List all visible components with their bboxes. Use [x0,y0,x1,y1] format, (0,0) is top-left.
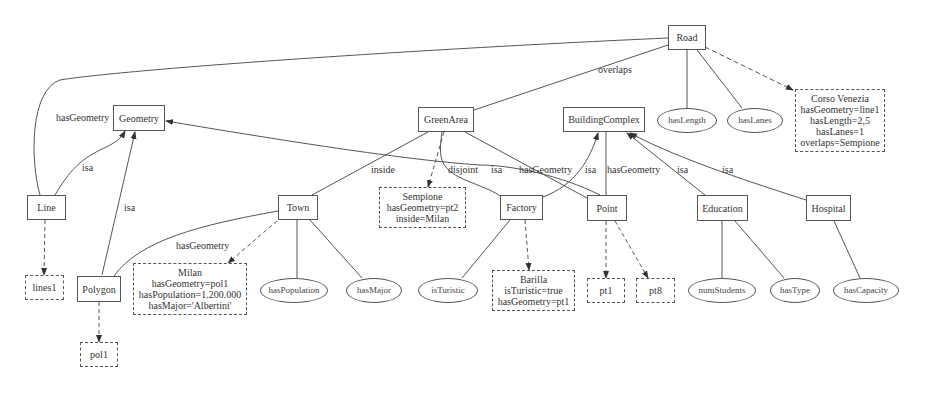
edge-label-isa-education: isa [677,164,688,175]
edge-label-disjoint: disjoint [448,164,478,175]
edge-label-hasgeometry-town: hasGeometry [176,240,229,251]
edge-point-geometry [166,121,600,195]
edge-town-milan [228,221,277,263]
edge-label-isa-polygon: isa [124,202,135,213]
instance-pt8[interactable]: pt8 [636,278,675,303]
class-road[interactable]: Road [668,25,706,50]
instance-milan-line: hasGeometry=pol1 [152,278,229,289]
edge-line-lines1 [44,220,45,275]
instance-sempione-line: inside=Milan [396,213,449,224]
instance-milan-line: hasMajor='Albertini' [148,300,231,311]
class-polygon[interactable]: Polygon [77,276,121,302]
instance-sempione-line: Sempione [403,191,443,202]
edge-road-greenarea [474,45,668,110]
class-line[interactable]: Line [27,195,66,220]
attr-has-lanes[interactable]: hasLanes [727,108,783,133]
edge-factory-barilla [525,220,529,270]
edge-label-isa-point: isa [491,164,502,175]
edge-greenarea-town [312,132,428,195]
instance-corso-venezia-line: hasGeometry=line1 [801,104,880,115]
attr-has-major[interactable]: hasMajor [346,278,402,303]
instance-pt1[interactable]: pt1 [587,278,625,303]
instance-barilla-line: isTuristic=true [504,285,563,296]
instance-milan-line: hasPopulation=1.200.000 [139,289,241,300]
instance-pol1[interactable]: pol1 [80,342,118,367]
attr-has-population[interactable]: hasPopulation [260,278,328,303]
instance-corso-venezia-line: hasLength=2,5 [810,115,870,126]
instance-barilla[interactable]: Barilla isTuristic=true hasGeometry=pt1 [492,270,575,311]
edge-point-pt8 [615,221,648,278]
attr-has-type[interactable]: hasType [770,278,820,303]
edge-label-isa-factory: isa [585,164,596,175]
attr-has-length[interactable]: hasLength [657,108,717,133]
class-green-area[interactable]: GreenArea [418,107,474,132]
edge-label-overlaps: overlaps [598,64,632,75]
edge-road-haslanes [697,50,742,108]
instance-sempione-line: hasGeometry=pt2 [387,202,459,213]
instance-corso-venezia-line: hasLanes=1 [816,126,864,137]
class-building-complex[interactable]: BuildingComplex [563,107,645,132]
edge-town-hasmajor [310,220,362,278]
instance-sempione[interactable]: Sempione hasGeometry=pt2 inside=Milan [379,187,466,228]
edge-label-inside: inside [371,164,395,175]
edge-education-hastype [735,221,784,278]
instance-lines1[interactable]: lines1 [25,275,64,300]
instance-barilla-line: hasGeometry=pt1 [498,296,570,307]
instance-milan[interactable]: Milan hasGeometry=pol1 hasPopulation=1.2… [133,263,247,315]
edge-label-isa-line: isa [82,162,93,173]
attr-has-capacity[interactable]: hasCapacity [833,278,899,303]
class-factory[interactable]: Factory [500,195,543,220]
instance-barilla-line: Barilla [520,274,547,285]
edge-road-corso [705,47,793,90]
class-geometry[interactable]: Geometry [113,105,165,131]
class-education[interactable]: Education [697,195,748,221]
edge-label-hasgeometry-point: hasGeometry [607,164,660,175]
edge-label-hasgeometry-line: hasGeometry [56,112,109,123]
instance-corso-venezia-line: Corso Venezia [811,93,869,104]
edge-label-hasgeometry-factory: hasGeometry [519,164,572,175]
edge-label-isa-hospital: isa [722,164,733,175]
attr-is-turistic[interactable]: isTuristic [418,278,478,303]
instance-corso-venezia-line: overlaps=Sempione [800,137,880,148]
attr-num-students[interactable]: numStudents [688,278,756,303]
instance-milan-line: Milan [178,267,202,278]
edge-hospital-hascapacity [834,221,860,278]
class-point[interactable]: Point [587,195,627,221]
instance-corso-venezia[interactable]: Corso Venezia hasGeometry=line1 hasLengt… [795,89,885,152]
class-town[interactable]: Town [278,195,318,220]
class-hospital[interactable]: Hospital [806,195,851,221]
